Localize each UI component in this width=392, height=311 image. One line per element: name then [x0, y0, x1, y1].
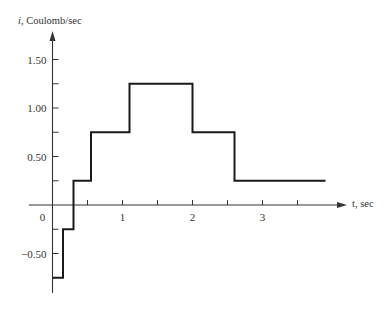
- ticks: [53, 60, 298, 254]
- x-tick-label: 2: [190, 211, 196, 223]
- y-tick-label: 0.50: [27, 151, 47, 163]
- x-axis-label: t, sec: [352, 198, 374, 209]
- axes: [29, 31, 347, 293]
- x-axis-arrow-icon: [337, 202, 347, 208]
- y-axis-unit: , Coulomb/sec: [21, 15, 82, 26]
- step-chart: 01231.501.000.50−0.50: [0, 0, 392, 311]
- x-tick-label: 3: [260, 211, 266, 223]
- y-axis-arrow-icon: [50, 31, 56, 41]
- y-tick-label: 1.00: [27, 102, 47, 114]
- x-tick-label: 1: [120, 211, 126, 223]
- y-tick-label: 1.50: [27, 54, 47, 66]
- x-tick-label: 0: [40, 211, 46, 223]
- current-step-line: [53, 84, 326, 278]
- y-axis-label: i, Coulomb/sec: [18, 15, 82, 26]
- y-tick-label: −0.50: [21, 248, 47, 260]
